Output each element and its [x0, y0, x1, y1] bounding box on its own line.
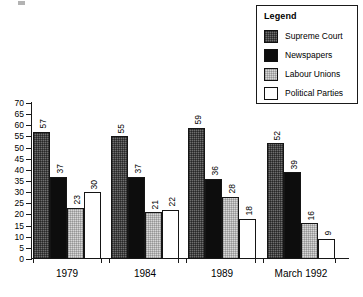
legend-item-newspapers: Newspapers [264, 46, 356, 65]
y-axis-tick-label: 50 [4, 144, 24, 153]
bar-political-parties-1: 22 [162, 103, 179, 259]
legend-swatch-labour-unions [264, 68, 278, 81]
legend-swatch-political-parties [264, 87, 278, 100]
y-axis-tick-label: 25 [4, 199, 24, 208]
bar-rect: 18 [239, 219, 256, 259]
bar-value-label: 22 [167, 198, 176, 207]
x-axis-tick [186, 258, 187, 263]
bar-value-label: 18 [244, 206, 253, 215]
bar-supreme-court-3: 52 [267, 103, 284, 259]
x-axis-tick [255, 258, 256, 263]
bar-political-parties-0: 30 [84, 103, 101, 259]
bar-value-label: 39 [289, 160, 298, 169]
x-axis-tick [33, 258, 34, 263]
bar-political-parties-3: 9 [318, 103, 335, 259]
legend-label-political-parties: Political Parties [285, 89, 343, 98]
legend-title: Legend [264, 11, 297, 21]
y-axis-tick-label: 45 [4, 155, 24, 164]
x-axis-tick [178, 258, 179, 263]
bar-value-label: 9 [323, 231, 332, 236]
bar-newspapers-0: 37 [50, 103, 67, 259]
bar-rect: 37 [128, 177, 145, 259]
bar-rect: 59 [188, 128, 205, 259]
bar-rect: 39 [284, 172, 301, 259]
x-axis-tick [101, 258, 102, 263]
bar-newspapers-3: 39 [284, 103, 301, 259]
bar-labour-unions-3: 16 [301, 103, 318, 259]
y-axis-tick-label: 0 [4, 255, 24, 264]
bar-rect: 55 [111, 136, 128, 259]
y-axis-tick-label: 15 [4, 222, 24, 231]
bar-value-label: 52 [272, 131, 281, 140]
x-axis-tick [109, 258, 110, 263]
legend-label-labour-unions: Labour Unions [285, 70, 340, 79]
bar-value-label: 55 [116, 124, 125, 133]
legend-label-supreme-court: Supreme Court [285, 32, 343, 41]
bar-labour-unions-1: 21 [145, 103, 162, 259]
legend-item-labour-unions: Labour Unions [264, 65, 356, 84]
bar-labour-unions-0: 23 [67, 103, 84, 259]
bar-value-label: 16 [306, 211, 315, 220]
y-axis-tick-label: 20 [4, 210, 24, 219]
bar-value-label: 57 [38, 120, 47, 129]
x-axis-category-label: 1979 [56, 268, 78, 279]
legend-swatch-newspapers [264, 49, 278, 62]
bar-value-label: 59 [193, 115, 202, 124]
y-axis-tick-label: 30 [4, 188, 24, 197]
bar-value-label: 28 [227, 184, 236, 193]
bar-value-label: 23 [72, 195, 81, 204]
bar-rect: 28 [222, 197, 239, 259]
x-axis-tick [335, 258, 336, 263]
bar-value-label: 37 [133, 164, 142, 173]
bar-rect: 22 [162, 210, 179, 259]
y-axis-tick-label: 5 [4, 244, 24, 253]
bar-supreme-court-2: 59 [188, 103, 205, 259]
legend-items: Supreme Court Newspapers Labour Unions P… [264, 27, 356, 103]
bar-rect: 23 [67, 208, 84, 259]
bar-rect: 57 [33, 132, 50, 259]
bar-rect: 21 [145, 212, 162, 259]
bar-rect: 52 [267, 143, 284, 259]
bar-value-label: 36 [210, 166, 219, 175]
x-axis-category-label: 1984 [134, 268, 156, 279]
bar-labour-unions-2: 28 [222, 103, 239, 259]
bar-rect: 37 [50, 177, 67, 259]
x-axis-category-label: 1989 [211, 268, 233, 279]
x-axis-tick [263, 258, 264, 263]
y-axis-tick [26, 259, 31, 260]
bar-rect: 16 [301, 223, 318, 259]
legend-label-newspapers: Newspapers [285, 51, 332, 60]
bar-supreme-court-0: 57 [33, 103, 50, 259]
y-axis-labels: 0510152025303540455055606570 [2, 0, 24, 297]
y-axis-tick-label: 10 [4, 233, 24, 242]
bar-newspapers-2: 36 [205, 103, 222, 259]
y-axis-tick-label: 55 [4, 132, 24, 141]
legend-swatch-supreme-court [264, 30, 278, 43]
bar-newspapers-1: 37 [128, 103, 145, 259]
bar-rect: 36 [205, 179, 222, 259]
bar-rect: 9 [318, 239, 335, 259]
y-axis-tick-label: 65 [4, 110, 24, 119]
x-axis-category-label: March 1992 [275, 268, 328, 279]
bar-rect: 30 [84, 192, 101, 259]
y-axis-tick-label: 60 [4, 121, 24, 130]
chart-legend: Legend Supreme Court Newspapers Labour U… [256, 5, 358, 104]
bar-value-label: 21 [150, 200, 159, 209]
x-axis-labels: 197919841989March 1992 [31, 268, 349, 288]
y-axis-tick-label: 70 [4, 99, 24, 108]
legend-item-political-parties: Political Parties [264, 84, 356, 103]
bar-value-label: 30 [89, 180, 98, 189]
legend-item-supreme-court: Supreme Court [264, 27, 356, 46]
bars-layer: 5737233055372122593628185239169 [31, 103, 349, 259]
bar-supreme-court-1: 55 [111, 103, 128, 259]
y-axis-tick-label: 40 [4, 166, 24, 175]
bar-value-label: 37 [55, 164, 64, 173]
bar-political-parties-2: 18 [239, 103, 256, 259]
y-axis-tick-label: 35 [4, 177, 24, 186]
bar-chart: Legend Supreme Court Newspapers Labour U… [0, 0, 363, 297]
